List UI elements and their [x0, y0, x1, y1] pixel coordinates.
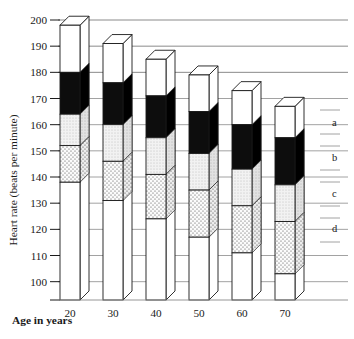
- y-axis-tick-label: 100: [30, 276, 47, 288]
- bar-segment-side: [252, 197, 261, 253]
- bar-segment-c: [189, 153, 209, 190]
- bar-segment-side: [209, 181, 218, 237]
- legend-label-a: a: [332, 117, 337, 128]
- bar-segment-base: [60, 182, 80, 300]
- category-labels: 203040506070: [64, 307, 291, 319]
- bar-segment-c: [103, 125, 123, 162]
- x-axis-category-label: 50: [193, 307, 205, 319]
- bar-segment-a: [275, 106, 295, 137]
- x-axis-category-label: 60: [236, 307, 248, 319]
- bar-column: [189, 66, 218, 300]
- y-axis-tick-label: 190: [30, 40, 47, 52]
- chart-container: 100110120130140150160170180190200 203040…: [0, 0, 354, 339]
- bar-segment-c: [146, 138, 166, 175]
- y-axis-tick-label: 160: [30, 119, 47, 131]
- bar-segment-b: [60, 72, 80, 114]
- bar-segment-d: [103, 161, 123, 200]
- bar-column: [146, 50, 175, 300]
- y-axis-tick-label: 140: [30, 171, 47, 183]
- y-axis-tick-label: 200: [30, 14, 47, 26]
- y-axis-tick-label: 120: [30, 223, 47, 235]
- bar-segment-a: [232, 91, 252, 125]
- bar-segment-d: [232, 206, 252, 253]
- bar-column: [275, 97, 304, 300]
- x-axis-category-label: 70: [279, 307, 291, 319]
- bar-segment-a: [60, 25, 80, 72]
- x-axis-category-label: 40: [150, 307, 162, 319]
- legend-label-c: c: [332, 188, 337, 199]
- bar-segment-base: [232, 253, 252, 300]
- bar-segment-base: [146, 219, 166, 300]
- bar-segment-d: [275, 221, 295, 273]
- bar-segment-c: [60, 114, 80, 145]
- bar-segment-d: [189, 190, 209, 237]
- bar-segment-b: [146, 96, 166, 138]
- y-axis-tick-label: 150: [30, 145, 47, 157]
- legend-label-d: d: [332, 223, 338, 234]
- legend: abcd: [320, 110, 340, 242]
- bar-segment-a: [189, 75, 209, 112]
- y-axis-tick-label: 170: [30, 93, 47, 105]
- bar-segment-c: [275, 185, 295, 222]
- x-axis-title: Age in years: [12, 314, 73, 326]
- legend-label-b: b: [332, 152, 337, 163]
- bar-column: [232, 82, 261, 300]
- bar-segment-d: [60, 146, 80, 183]
- x-axis-category-label: 30: [107, 307, 119, 319]
- bar-segment-base: [103, 201, 123, 300]
- bar-segment-b: [103, 83, 123, 125]
- bar-column: [60, 16, 89, 300]
- bar-segment-a: [103, 44, 123, 83]
- bar-segment-c: [232, 169, 252, 206]
- bar-segment-b: [189, 112, 209, 154]
- bar-segment-b: [275, 138, 295, 185]
- y-axis-tick-label: 180: [30, 66, 47, 78]
- bar-segment-side: [295, 129, 304, 185]
- bar-segment-side: [123, 152, 132, 200]
- bar-segment-d: [146, 174, 166, 218]
- y-axis-tick-labels: 100110120130140150160170180190200: [30, 14, 47, 288]
- bar-segment-b: [232, 125, 252, 169]
- bar-chart: 100110120130140150160170180190200 203040…: [0, 0, 354, 339]
- bar-column: [103, 35, 132, 300]
- y-axis-tick-label: 110: [31, 250, 48, 262]
- bars-layer: [60, 16, 304, 300]
- bar-segment-base: [275, 274, 295, 300]
- y-axis-tick-marks: [50, 20, 60, 300]
- bar-segment-base: [189, 237, 209, 300]
- y-axis-title: Heart rate (beats per minute): [7, 114, 20, 245]
- bar-segment-side: [166, 165, 175, 218]
- bar-segment-a: [146, 59, 166, 96]
- bar-segment-side: [295, 212, 304, 273]
- y-axis-tick-label: 130: [30, 197, 47, 209]
